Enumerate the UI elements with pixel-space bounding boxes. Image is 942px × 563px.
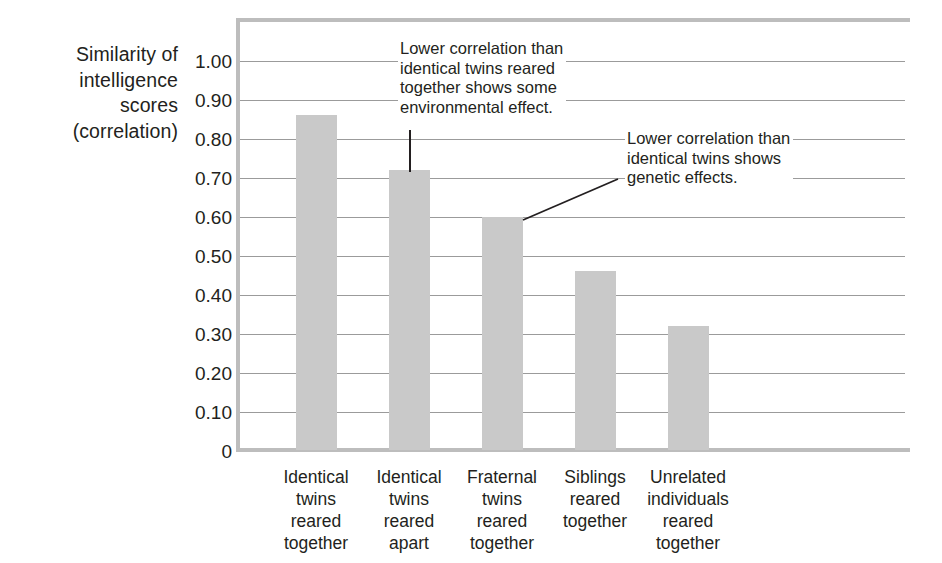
y-tick-label: 1.00 [180, 52, 232, 71]
x-category-line: together [628, 532, 748, 554]
annotation-line: Lower correlation than [627, 129, 790, 149]
annotation-2-leader-line [518, 176, 622, 222]
annotation-line: Lower correlation than [400, 39, 563, 59]
y-tick-label: 0.30 [180, 325, 232, 344]
gridline-0-10 [240, 412, 905, 413]
x-category-label-unrelated-individuals-reared-together: Unrelated individuals reared together [628, 466, 748, 554]
gridline-0-90 [240, 100, 905, 101]
chart-canvas: Similarity of intelligence scores (corre… [0, 0, 942, 563]
y-tick-label: 0.60 [180, 208, 232, 227]
annotation-1-leader-line [409, 130, 411, 172]
bar-siblings-reared-together[interactable] [575, 271, 616, 450]
bar-identical-twins-reared-together[interactable] [296, 115, 337, 450]
annotation-line: identical twins shows [627, 149, 790, 169]
gridline-1-00 [240, 61, 905, 62]
annotation-environmental-effect: Lower correlation than identical twins r… [398, 38, 566, 118]
y-tick-label: 0.10 [180, 403, 232, 422]
bar-identical-twins-reared-apart[interactable] [389, 170, 430, 450]
annotation-line: together shows some [400, 78, 563, 98]
y-tick-label: 0 [180, 442, 232, 461]
x-category-line: together [442, 532, 562, 554]
y-axis-title: Similarity of intelligence scores (corre… [0, 42, 178, 144]
y-axis-title-line: scores [0, 93, 178, 119]
gridline-0-40 [240, 295, 905, 296]
gridline-0-80 [240, 139, 905, 140]
gridline-0-50 [240, 256, 905, 257]
x-category-line: reared [628, 510, 748, 532]
y-axis-title-line: Similarity of [0, 42, 178, 68]
y-axis-title-line: intelligence [0, 68, 178, 94]
x-category-line: individuals [628, 488, 748, 510]
y-tick-label: 0.20 [180, 364, 232, 383]
annotation-genetic-effects: Lower correlation than identical twins s… [625, 128, 793, 189]
y-tick-label: 0.50 [180, 247, 232, 266]
y-tick-label: 0.70 [180, 169, 232, 188]
gridline-0-30 [240, 334, 905, 335]
gridline-0-20 [240, 373, 905, 374]
x-axis-baseline [236, 448, 910, 452]
plot-frame [236, 18, 910, 451]
y-tick-label: 0.90 [180, 91, 232, 110]
annotation-line: identical twins reared [400, 59, 563, 79]
bar-unrelated-individuals-reared-together[interactable] [668, 326, 709, 450]
y-tick-label: 0.40 [180, 286, 232, 305]
x-category-line: Unrelated [628, 466, 748, 488]
y-axis-title-line: (correlation) [0, 119, 178, 145]
bar-fraternal-twins-reared-together[interactable] [482, 217, 523, 450]
annotation-line: environmental effect. [400, 98, 563, 118]
annotation-line: genetic effects. [627, 168, 790, 188]
y-tick-label: 0.80 [180, 130, 232, 149]
